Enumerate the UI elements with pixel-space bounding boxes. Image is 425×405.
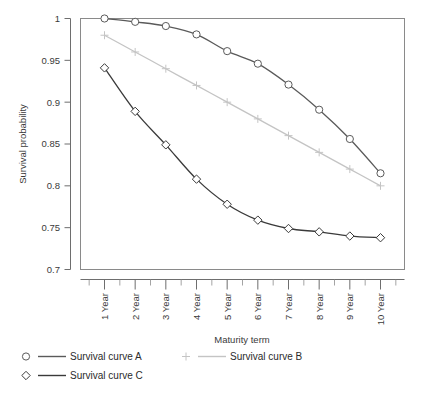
- data-point-marker: [254, 60, 261, 67]
- data-point-marker: [285, 132, 293, 140]
- data-point-marker: [162, 22, 169, 29]
- x-axis-ticks: 1 Year2 Year3 Year4 Year5 Year6 Year7 Ye…: [89, 280, 396, 326]
- page-corner-marks: [3, 400, 29, 403]
- plot-frame: [81, 19, 405, 270]
- survival-probability-chart: 0.70.750.80.850.90.951 Survival probabil…: [0, 0, 425, 405]
- legend-label: Survival curve B: [230, 351, 303, 362]
- data-point-marker: [377, 170, 384, 177]
- series-1: [101, 15, 384, 177]
- y-axis-title: Survival probability: [17, 104, 28, 184]
- y-tick-label: 0.7: [47, 264, 60, 275]
- x-tick-label: 10 Year: [375, 293, 386, 325]
- data-point-marker: [346, 232, 354, 240]
- data-point-marker: [193, 81, 201, 89]
- y-tick-label: 0.9: [47, 97, 60, 108]
- data-point-marker: [316, 106, 323, 113]
- x-tick-label: 5 Year: [222, 293, 233, 320]
- data-point-marker: [376, 234, 384, 242]
- x-tick-label: 6 Year: [252, 293, 263, 320]
- data-point-marker: [315, 148, 323, 156]
- data-point-marker: [101, 31, 109, 39]
- data-point-marker: [377, 182, 385, 190]
- series-2: [101, 31, 385, 190]
- data-point-marker: [346, 135, 353, 142]
- diamond-marker-icon: [22, 371, 30, 379]
- x-tick-label: 9 Year: [344, 293, 355, 320]
- data-point-marker: [223, 200, 231, 208]
- x-tick-label: 4 Year: [191, 293, 202, 320]
- y-tick-label: 0.95: [42, 55, 61, 66]
- data-point-marker: [162, 65, 170, 73]
- data-point-marker: [223, 98, 231, 106]
- y-tick-label: 0.85: [42, 138, 61, 149]
- legend-item-3[interactable]: Survival curve C: [22, 370, 143, 381]
- x-axis-title: Maturity term: [214, 334, 270, 345]
- data-point-marker: [254, 115, 262, 123]
- data-point-marker: [131, 48, 139, 56]
- data-point-marker: [132, 18, 139, 25]
- data-point-marker: [254, 216, 262, 224]
- data-point-marker: [285, 81, 292, 88]
- y-tick-label: 0.8: [47, 180, 60, 191]
- y-tick-label: 0.75: [42, 222, 61, 233]
- series-layer: [100, 15, 384, 242]
- x-tick-label: 3 Year: [160, 293, 171, 320]
- data-point-marker: [315, 228, 323, 236]
- x-tick-label: 7 Year: [283, 293, 294, 320]
- data-point-marker: [284, 224, 292, 232]
- legend-item-1[interactable]: Survival curve A: [22, 351, 142, 362]
- data-point-marker: [100, 64, 108, 72]
- series-line: [105, 68, 381, 238]
- data-point-marker: [346, 165, 354, 173]
- series-3: [100, 64, 384, 242]
- circle-marker-icon: [22, 353, 29, 360]
- data-point-marker: [224, 48, 231, 55]
- y-tick-label: 1: [55, 13, 60, 24]
- legend-label: Survival curve A: [70, 351, 142, 362]
- y-axis-ticks: 0.70.750.80.850.90.951: [42, 13, 71, 275]
- legend-item-2[interactable]: Survival curve B: [182, 351, 303, 362]
- data-point-marker: [101, 15, 108, 22]
- data-point-marker: [193, 31, 200, 38]
- x-tick-label: 2 Year: [130, 293, 141, 320]
- legend-label: Survival curve C: [70, 370, 143, 381]
- chart-canvas: 0.70.750.80.850.90.951 Survival probabil…: [0, 0, 425, 405]
- x-tick-label: 1 Year: [99, 293, 110, 320]
- chart-legend: Survival curve ASurvival curve BSurvival…: [22, 351, 303, 381]
- x-tick-label: 8 Year: [314, 293, 325, 320]
- plus-marker-icon: [182, 353, 190, 361]
- series-line: [105, 19, 381, 174]
